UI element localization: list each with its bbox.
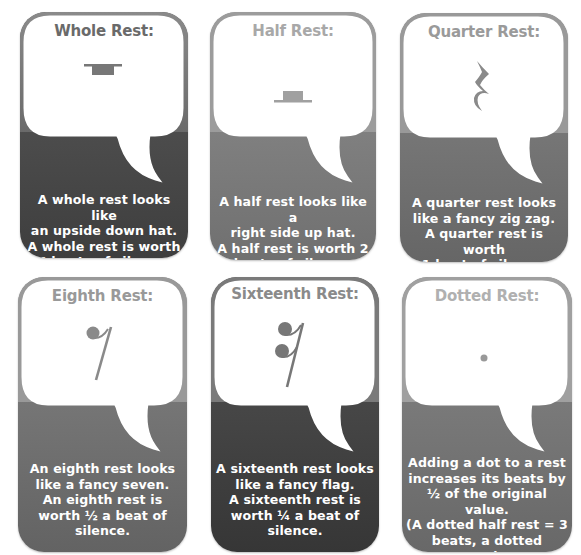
card-title: Sixteenth Rest: <box>211 285 379 303</box>
card-description: A half rest looks like a right side up h… <box>214 194 372 260</box>
eighth-rest-icon <box>86 325 116 385</box>
card-whole-rest: Whole Rest: A whole rest looks like an u… <box>20 12 188 258</box>
card-title: Whole Rest: <box>20 22 188 40</box>
half-rest-icon <box>274 90 312 109</box>
card-description: An eighth rest looks like a fancy seven.… <box>22 461 183 539</box>
card-description: A sixteenth rest looks like a fancy flag… <box>215 461 375 539</box>
card-title: Dotted Rest: <box>402 287 572 305</box>
card-description: A quarter rest looks like a fancy zig za… <box>404 195 564 262</box>
card-eighth-rest: Eighth Rest: An eighth rest looks like a… <box>18 277 187 552</box>
dot-icon <box>480 347 488 366</box>
card-quarter-rest: Quarter Rest: A quarter rest looks like … <box>400 13 568 262</box>
whole-rest-icon <box>84 63 122 82</box>
card-half-rest: Half Rest: A half rest looks like a righ… <box>210 12 376 260</box>
card-sixteenth-rest: Sixteenth Rest: A sixteenth rest looks l… <box>211 277 379 552</box>
card-title: Eighth Rest: <box>18 287 187 305</box>
card-title: Quarter Rest: <box>400 23 568 41</box>
card-dotted-rest: Dotted Rest: Adding a dot to a rest incr… <box>402 277 572 552</box>
card-title: Half Rest: <box>210 22 376 40</box>
quarter-rest-icon <box>473 61 493 115</box>
card-description: A whole rest looks like an upside down h… <box>24 192 184 258</box>
sixteenth-rest-icon <box>275 321 309 393</box>
card-description: Adding a dot to a rest increases its bea… <box>406 455 568 552</box>
